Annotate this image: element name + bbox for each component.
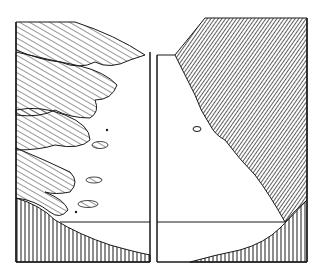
dense-cliff (175, 18, 307, 222)
pebble (106, 129, 108, 131)
left-panel (16, 22, 150, 262)
right-panel (157, 18, 307, 262)
pebble (75, 211, 77, 213)
valley-illustration (0, 0, 320, 277)
boulder (193, 127, 201, 132)
boulder (78, 201, 98, 208)
boulder (92, 142, 108, 149)
left-base-hatch (16, 198, 150, 262)
boulder (86, 177, 102, 183)
